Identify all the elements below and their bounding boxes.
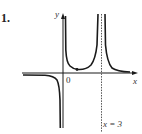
curve-middle-branch: [66, 14, 99, 70]
curve-right-branch: [105, 14, 130, 72]
local-minimum-point: [76, 68, 79, 71]
curve-left-branch: [23, 75, 60, 128]
x-axis-arrow-icon: [132, 71, 138, 75]
x-axis-label: x: [132, 76, 137, 86]
origin-label: 0: [66, 75, 71, 85]
y-axis-label: y: [54, 9, 59, 19]
y-axis-arrow-icon: [61, 13, 65, 19]
y-axis: [61, 13, 65, 128]
function-graph: y x 0 x = 3: [0, 0, 142, 134]
asymptote-label: x = 3: [102, 119, 123, 129]
